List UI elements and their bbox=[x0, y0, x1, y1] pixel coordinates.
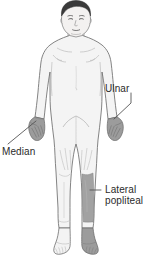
label-lateral-popliteal: Lateral popliteal bbox=[105, 184, 143, 206]
label-lateral-popliteal-line1: Lateral bbox=[105, 184, 143, 195]
left-hand-shape bbox=[107, 117, 123, 141]
nerve-distribution-figure: Ulnar Median Lateral popliteal bbox=[0, 0, 152, 257]
label-ulnar: Ulnar bbox=[105, 83, 129, 94]
feet-group bbox=[54, 228, 99, 254]
left-lower-leg-shaded-region bbox=[82, 173, 94, 222]
right-hand-shape bbox=[29, 117, 45, 141]
human-body-illustration bbox=[0, 0, 152, 257]
head-group bbox=[61, 1, 92, 38]
label-median: Median bbox=[2, 146, 35, 157]
left-lower-leg-shading bbox=[82, 173, 94, 222]
label-lateral-popliteal-line2: popliteal bbox=[105, 195, 143, 206]
right-hand-shaded-region bbox=[29, 117, 45, 141]
left-hand-shaded-region bbox=[107, 117, 123, 141]
